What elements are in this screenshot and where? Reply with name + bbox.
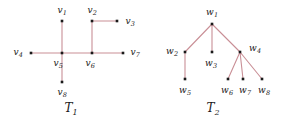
- vertex-label-sub-v7: 7: [136, 51, 140, 59]
- vertex-label-sub-w3: 3: [213, 62, 217, 70]
- graph-vertex-w2: [184, 51, 187, 54]
- edges-layer: [31, 21, 262, 82]
- vertex-label-sub-v4: 4: [19, 51, 23, 59]
- graph-edge-w4-w7: [240, 52, 243, 79]
- graph-edge-w1-w4: [212, 24, 240, 52]
- vertex-label-v8: v8: [57, 88, 66, 97]
- graph-vertex-v1: [61, 20, 64, 23]
- vertex-label-base-w8: w: [258, 85, 266, 95]
- vertex-label-w5: w5: [179, 86, 191, 95]
- vertex-label-v5: v5: [53, 59, 62, 68]
- vertex-label-v2: v2: [87, 6, 96, 15]
- vertex-label-sub-w7: 7: [247, 89, 251, 97]
- tree-caption-base-T1: T: [64, 101, 72, 115]
- tree-caption-T1: T1: [64, 102, 77, 114]
- vertex-label-w1: w1: [206, 8, 218, 17]
- graph-vertex-v2: [91, 20, 94, 23]
- graph-edge-w1-w2: [185, 24, 212, 52]
- vertex-label-v1: v1: [57, 6, 66, 15]
- graph-vertex-w8: [261, 78, 264, 81]
- vertex-label-base-w5: w: [179, 85, 187, 95]
- vertex-label-sub-w1: 1: [214, 11, 218, 19]
- graph-vertex-v8: [61, 81, 64, 84]
- graph-vertex-w7: [242, 78, 245, 81]
- vertex-label-sub-w6: 6: [229, 89, 233, 97]
- tree-diagram-figure: v1v2v3v4v5v6v7v8T1w1w2w3w4w5w6w7w8T2: [0, 0, 285, 124]
- vertex-label-base-w2: w: [166, 46, 174, 56]
- vertex-label-sub-v2: 2: [93, 9, 97, 17]
- vertex-label-w2: w2: [166, 47, 178, 56]
- graph-edge-w4-w6: [228, 52, 240, 79]
- vertices-layer: [30, 20, 264, 84]
- graph-vertex-v5: [61, 52, 64, 55]
- graph-vertex-v6: [91, 52, 94, 55]
- vertex-label-sub-v1: 1: [63, 9, 67, 17]
- vertex-label-base-w1: w: [206, 7, 214, 17]
- vertex-label-base-w4: w: [249, 43, 257, 53]
- tree-caption-T2: T2: [206, 102, 219, 114]
- vertex-label-w8: w8: [258, 86, 270, 95]
- vertex-label-sub-v8: 8: [63, 91, 67, 99]
- vertex-label-w3: w3: [205, 59, 217, 68]
- vertex-label-sub-w5: 5: [187, 89, 191, 97]
- vertex-label-sub-w8: 8: [266, 89, 270, 97]
- tree-caption-sub-T2: 2: [214, 108, 219, 117]
- graph-vertex-w5: [184, 78, 187, 81]
- vertex-label-v3: v3: [125, 17, 134, 26]
- vertex-label-base-w7: w: [239, 85, 247, 95]
- vertex-label-v6: v6: [85, 59, 94, 68]
- vertex-label-w6: w6: [221, 86, 233, 95]
- graph-vertex-v4: [30, 52, 33, 55]
- graph-vertex-v7: [122, 52, 125, 55]
- vertex-label-sub-w2: 2: [174, 50, 178, 58]
- vertex-label-base-w6: w: [221, 85, 229, 95]
- vertex-label-sub-w4: 4: [257, 47, 261, 55]
- graph-vertex-w6: [227, 78, 230, 81]
- vertex-label-sub-v3: 3: [131, 20, 135, 28]
- vertex-label-w4: w4: [249, 44, 261, 53]
- graph-vertex-v3: [116, 20, 119, 23]
- tree-caption-base-T2: T: [206, 101, 214, 115]
- vertex-label-v4: v4: [13, 48, 22, 57]
- graph-vertex-w1: [211, 23, 214, 26]
- vertex-label-sub-v5: 5: [59, 62, 63, 70]
- vertex-label-w7: w7: [239, 86, 251, 95]
- graph-vertex-w4: [239, 51, 242, 54]
- graph-canvas: [0, 0, 285, 124]
- tree-caption-sub-T1: 1: [72, 108, 77, 117]
- graph-vertex-w3: [211, 51, 214, 54]
- graph-edge-w4-w8: [240, 52, 262, 79]
- vertex-label-base-w3: w: [205, 58, 213, 68]
- vertex-label-sub-v6: 6: [91, 62, 95, 70]
- vertex-label-v7: v7: [130, 48, 139, 57]
